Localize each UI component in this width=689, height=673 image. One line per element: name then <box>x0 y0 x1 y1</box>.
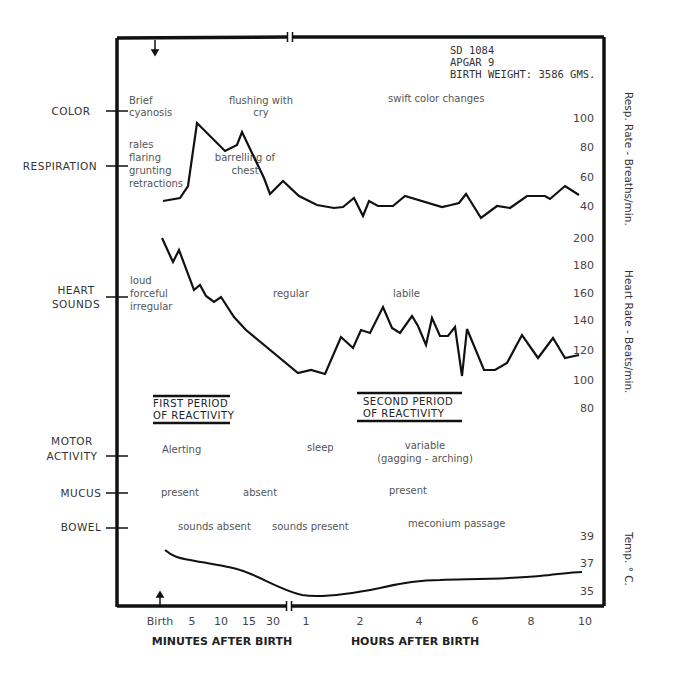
svg-text:4: 4 <box>416 615 423 628</box>
subject-id: SD 1084 <box>450 44 494 56</box>
svg-text:sounds absent: sounds absent <box>178 521 251 532</box>
respiration-annotations: rales flaring grunting retractions barre… <box>129 139 276 189</box>
svg-text:retractions: retractions <box>129 178 183 189</box>
row-label-respiration: RESPIRATION <box>23 160 97 172</box>
svg-text:37: 37 <box>580 557 594 570</box>
birth-weight: BIRTH WEIGHT: 3586 GMS. <box>450 68 595 80</box>
svg-text:barrelling of: barrelling of <box>215 152 276 163</box>
row-labels: COLOR RESPIRATION HEART SOUNDS MOTOR ACT… <box>23 105 102 533</box>
svg-text:(gagging - arching): (gagging - arching) <box>377 453 473 464</box>
first-period-label: FIRST PERIOD OF REACTIVITY <box>153 396 235 423</box>
neonatal-chart: SD 1084 APGAR 9 BIRTH WEIGHT: 3586 GMS. … <box>0 0 689 673</box>
svg-text:5: 5 <box>189 615 196 628</box>
row-label-color: COLOR <box>51 105 90 117</box>
svg-text:120: 120 <box>573 344 594 357</box>
svg-text:labile: labile <box>393 288 420 299</box>
mucus-annotations: present absent present <box>161 485 427 498</box>
row-label-heart-2: SOUNDS <box>52 298 100 310</box>
svg-text:60: 60 <box>580 171 594 184</box>
svg-text:grunting: grunting <box>129 165 172 176</box>
svg-text:1: 1 <box>303 615 310 628</box>
svg-text:irregular: irregular <box>130 301 173 312</box>
svg-text:30: 30 <box>266 615 280 628</box>
svg-text:cry: cry <box>253 107 269 118</box>
svg-text:140: 140 <box>573 314 594 327</box>
birth-arrows <box>152 40 163 605</box>
svg-text:absent: absent <box>243 487 277 498</box>
header-info: SD 1084 APGAR 9 BIRTH WEIGHT: 3586 GMS. <box>450 44 595 80</box>
svg-text:100: 100 <box>573 374 594 387</box>
bowel-annotations: sounds absent sounds present meconium pa… <box>178 518 505 532</box>
heart-rate-line <box>162 238 579 376</box>
svg-text:Birth: Birth <box>147 615 173 628</box>
svg-text:chest: chest <box>231 165 258 176</box>
row-label-motor-1: MOTOR <box>51 435 93 447</box>
svg-text:regular: regular <box>273 288 310 299</box>
svg-text:variable: variable <box>405 440 445 451</box>
x-axis-label-hours: HOURS AFTER BIRTH <box>351 635 479 648</box>
temperature-line <box>165 550 582 596</box>
svg-text:sounds present: sounds present <box>272 521 349 532</box>
row-label-motor-2: ACTIVITY <box>47 450 98 462</box>
row-label-mucus: MUCUS <box>61 487 102 499</box>
second-period-label: SECOND PERIOD OF REACTIVITY <box>357 393 462 421</box>
svg-text:100: 100 <box>573 112 594 125</box>
svg-text:10: 10 <box>578 615 592 628</box>
svg-text:meconium passage: meconium passage <box>408 518 505 529</box>
svg-text:200: 200 <box>573 232 594 245</box>
temp-axis-title: Temp. ° C. <box>623 531 635 586</box>
color-annotations: Brief cyanosis flushing with cry swift c… <box>129 93 484 118</box>
svg-text:FIRST PERIOD: FIRST PERIOD <box>153 398 228 409</box>
svg-text:35: 35 <box>580 585 594 598</box>
row-label-bowel: BOWEL <box>61 521 102 533</box>
svg-text:SECOND PERIOD: SECOND PERIOD <box>363 396 453 407</box>
svg-text:forceful: forceful <box>130 288 168 299</box>
svg-text:10: 10 <box>214 615 228 628</box>
svg-text:80: 80 <box>580 141 594 154</box>
svg-text:180: 180 <box>573 259 594 272</box>
svg-text:present: present <box>389 485 427 496</box>
svg-text:6: 6 <box>472 615 479 628</box>
svg-text:39: 39 <box>580 530 594 543</box>
svg-text:15: 15 <box>242 615 256 628</box>
svg-text:160: 160 <box>573 287 594 300</box>
svg-text:Brief: Brief <box>129 95 153 106</box>
svg-text:swift color changes: swift color changes <box>388 93 484 104</box>
x-axis-label-minutes: MINUTES AFTER BIRTH <box>152 635 292 648</box>
svg-text:present: present <box>161 487 199 498</box>
svg-text:flaring: flaring <box>129 152 161 163</box>
svg-text:rales: rales <box>129 139 153 150</box>
apgar-score: APGAR 9 <box>450 56 494 68</box>
svg-text:80: 80 <box>580 402 594 415</box>
hr-axis-title: Heart Rate - Beats/min. <box>623 270 635 393</box>
svg-text:2: 2 <box>357 615 364 628</box>
x-axis-ticks: Birth 5 10 15 30 1 2 4 6 8 10 <box>147 615 592 628</box>
svg-text:OF REACTIVITY: OF REACTIVITY <box>153 410 235 421</box>
svg-text:OF REACTIVITY: OF REACTIVITY <box>363 408 445 419</box>
svg-text:loud: loud <box>130 275 152 286</box>
motor-annotations: Alerting sleep variable (gagging - archi… <box>162 440 473 464</box>
temp-axis: 39 37 35 Temp. ° C. <box>580 530 635 598</box>
heart-annotations: loud forceful irregular regular labile <box>130 275 420 312</box>
row-label-heart-1: HEART <box>57 284 94 296</box>
svg-text:8: 8 <box>528 615 535 628</box>
svg-text:Alerting: Alerting <box>162 444 201 455</box>
svg-text:flushing with: flushing with <box>229 95 293 106</box>
svg-text:cyanosis: cyanosis <box>129 107 172 118</box>
svg-text:sleep: sleep <box>307 442 334 453</box>
respiration-rate-line <box>163 123 579 218</box>
svg-text:40: 40 <box>580 200 594 213</box>
resp-axis-title: Resp. Rate - Breaths/min. <box>623 92 635 226</box>
